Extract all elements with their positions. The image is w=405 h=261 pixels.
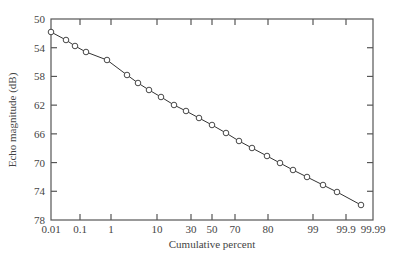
x-tick-label: 99.99 bbox=[361, 223, 386, 235]
y-tick-label: 70 bbox=[34, 157, 46, 169]
data-point-marker bbox=[146, 87, 152, 93]
data-line bbox=[51, 32, 361, 205]
y-tick-label: 74 bbox=[34, 185, 46, 197]
chart: 0.010.1110305070809999.999.99 5054586266… bbox=[0, 0, 405, 261]
y-tick-label: 62 bbox=[34, 99, 45, 111]
data-point-marker bbox=[264, 153, 270, 159]
x-axis-title: Cumulative percent bbox=[169, 238, 255, 250]
x-tick-label: 1 bbox=[108, 223, 114, 235]
data-point-marker bbox=[334, 189, 340, 195]
data-point-marker bbox=[236, 138, 242, 144]
y-tick-label: 78 bbox=[34, 214, 46, 226]
y-tick-label: 58 bbox=[34, 70, 46, 82]
y-tick-label: 66 bbox=[34, 128, 46, 140]
x-tick-label: 99 bbox=[308, 223, 320, 235]
y-axis-ticks: 5054586266707478 bbox=[34, 13, 373, 226]
x-tick-label: 99.9 bbox=[336, 223, 356, 235]
data-point-marker bbox=[83, 49, 89, 55]
data-point-marker bbox=[209, 122, 215, 128]
data-point-marker bbox=[183, 108, 189, 114]
data-point-marker bbox=[48, 29, 54, 35]
y-tick-label: 54 bbox=[34, 42, 46, 54]
y-tick-label: 50 bbox=[34, 13, 46, 25]
data-point-marker bbox=[320, 182, 326, 188]
data-point-marker bbox=[72, 43, 78, 49]
data-point-marker bbox=[158, 94, 164, 100]
data-point-marker bbox=[304, 174, 310, 180]
x-tick-label: 0.1 bbox=[73, 223, 87, 235]
x-tick-label: 80 bbox=[263, 223, 275, 235]
x-tick-label: 50 bbox=[207, 223, 219, 235]
y-axis-title: Echo magnitude (dB) bbox=[6, 72, 19, 167]
x-tick-label: 70 bbox=[230, 223, 242, 235]
data-point-marker bbox=[223, 130, 229, 136]
plot-frame bbox=[51, 19, 373, 220]
data-point-marker bbox=[63, 37, 69, 43]
x-tick-label: 30 bbox=[186, 223, 198, 235]
data-point-marker bbox=[196, 115, 202, 121]
data-point-marker bbox=[249, 145, 255, 151]
data-point-marker bbox=[171, 102, 177, 108]
data-point-marker bbox=[104, 57, 110, 63]
data-point-marker bbox=[135, 80, 141, 86]
x-tick-label: 10 bbox=[152, 223, 164, 235]
data-point-marker bbox=[124, 72, 130, 78]
data-point-marker bbox=[358, 202, 364, 208]
data-point-marker bbox=[290, 167, 296, 173]
data-point-marker bbox=[277, 160, 283, 166]
